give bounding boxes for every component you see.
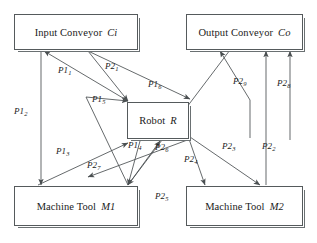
node-machine-tool-m2[interactable]: Machine Tool M2 bbox=[186, 186, 303, 226]
edge-e-M1-to-R-a bbox=[38, 143, 128, 185]
node-label-symbol: M1 bbox=[101, 201, 115, 212]
diagram-canvas: Input Conveyor Ci Output Conveyor Co Rob… bbox=[0, 0, 317, 243]
edge-label-p2-3: P23 bbox=[222, 142, 235, 151]
node-label-name: Machine Tool bbox=[37, 201, 96, 212]
edge-e-R-to-Co bbox=[220, 51, 250, 138]
node-label-symbol: R bbox=[170, 115, 177, 126]
edge-label-p1-2: P12 bbox=[14, 107, 27, 116]
node-output-conveyor[interactable]: Output Conveyor Co bbox=[186, 14, 303, 50]
edge-e-R-to-Ci-a bbox=[44, 51, 128, 101]
node-machine-tool-m1[interactable]: Machine Tool M1 bbox=[14, 186, 138, 226]
edge-label-p1-5: P15 bbox=[92, 95, 105, 104]
edge-label-p2-5: P25 bbox=[155, 192, 168, 201]
edge-e-Ci-to-R-b bbox=[88, 51, 190, 99]
edge-label-p2-9: P29 bbox=[233, 77, 246, 86]
edge-e-M1-to-Ci bbox=[86, 97, 128, 185]
node-label-symbol: M2 bbox=[270, 201, 284, 212]
edge-label-p2-4: P24 bbox=[184, 155, 197, 164]
node-label-name: Machine Tool bbox=[205, 201, 264, 212]
edge-label-p1-1: P11 bbox=[58, 66, 71, 75]
edge-label-p1-4: P14 bbox=[128, 141, 141, 150]
edge-label-p2-6: P26 bbox=[155, 143, 168, 152]
node-label-name: Robot bbox=[139, 115, 165, 126]
node-label-symbol: Co bbox=[278, 27, 290, 38]
edge-label-p2-8: P28 bbox=[277, 79, 290, 88]
edge-label-p2-7: P27 bbox=[87, 161, 100, 170]
node-label-name: Output Conveyor bbox=[198, 27, 273, 38]
edge-label-p1-6: P16 bbox=[148, 80, 161, 89]
edge-label-p1-3: P13 bbox=[56, 147, 69, 156]
node-label-name: Input Conveyor bbox=[35, 27, 103, 38]
edge-label-p2-1: P21 bbox=[105, 62, 118, 71]
node-label-symbol: Ci bbox=[107, 27, 117, 38]
node-input-conveyor[interactable]: Input Conveyor Ci bbox=[14, 14, 138, 50]
node-robot[interactable]: Robot R bbox=[127, 102, 189, 139]
edge-label-p2-2: P22 bbox=[262, 142, 275, 151]
